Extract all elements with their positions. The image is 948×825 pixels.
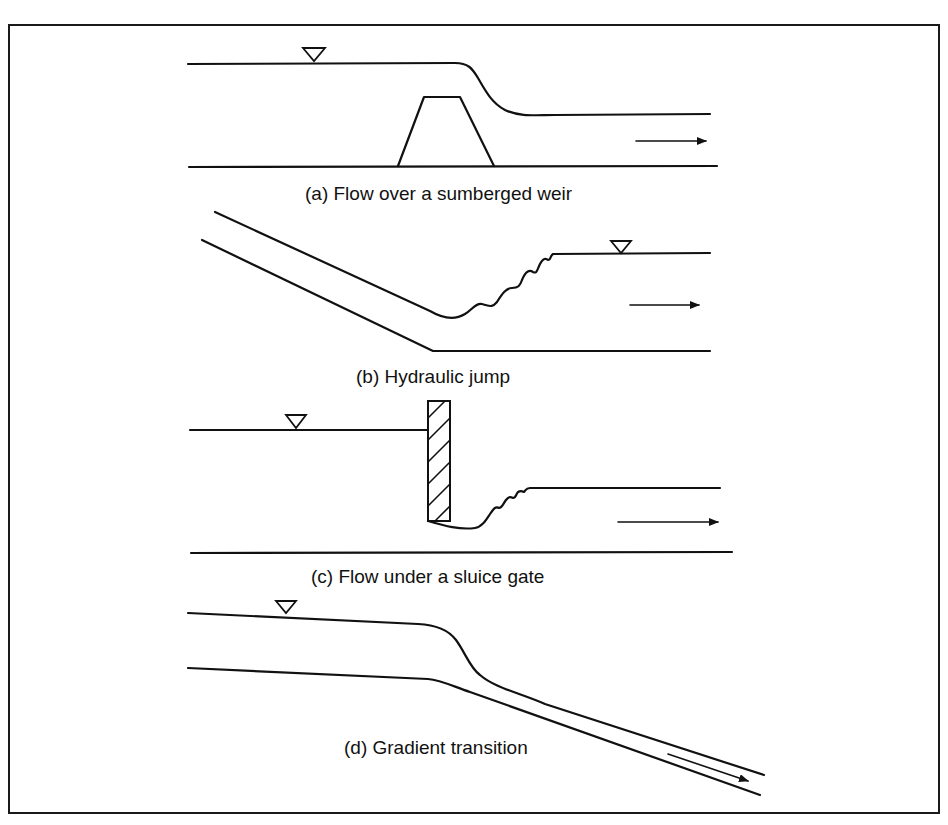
water-surface-marker-icon — [611, 241, 631, 253]
caption-panel-a: (a) Flow over a sumberged weir — [305, 183, 572, 205]
panel-b-hydraulic-jump — [202, 212, 710, 351]
channel-bed-line — [189, 166, 717, 167]
open-channel-flow-diagram — [0, 0, 948, 825]
caption-panel-d: (d) Gradient transition — [344, 737, 528, 759]
water-surface-marker-icon — [286, 415, 306, 428]
channel-bed-line — [202, 240, 710, 351]
weir-structure — [398, 97, 494, 166]
water-surface-marker-icon — [276, 601, 296, 613]
panel-a-weir — [188, 48, 717, 167]
channel-bed-line — [188, 668, 760, 795]
caption-panel-b: (b) Hydraulic jump — [356, 366, 510, 388]
panel-d-gradient-transition — [188, 601, 764, 795]
panel-c-sluice-gate — [190, 401, 732, 553]
water-surface-line — [215, 212, 710, 318]
water-surface-marker-icon — [303, 48, 325, 61]
sluice-gate — [428, 401, 450, 521]
channel-bed-line — [191, 552, 732, 553]
water-surface-line — [188, 63, 710, 115]
caption-panel-c: (c) Flow under a sluice gate — [311, 566, 544, 588]
